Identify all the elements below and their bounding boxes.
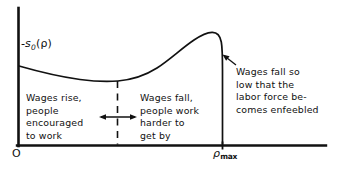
origin-label: O: [12, 148, 21, 161]
y-axis-label-argument: (ρ): [36, 37, 52, 50]
annotation-left-region: Wages rise, people encouraged to work: [26, 92, 83, 142]
x-axis-rho-max-label: ρmax: [213, 148, 237, 164]
figure-container: -s0(ρ) O ρmax Wages rise, people encoura…: [0, 0, 337, 173]
annotation-right-region: Wages fall so low that the labor force b…: [236, 66, 319, 116]
annotation-middle-region: Wages fall, people work harder to get by: [140, 92, 199, 142]
callout-arrow: [223, 55, 237, 66]
rho-max-subscript: max: [220, 152, 237, 161]
y-axis-label-main: -s: [21, 37, 31, 50]
y-axis-label: -s0(ρ): [21, 38, 52, 54]
